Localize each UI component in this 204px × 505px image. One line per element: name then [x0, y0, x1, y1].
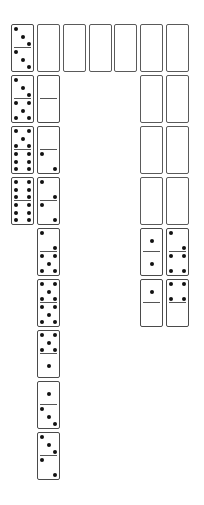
domino-half-top-one: [141, 280, 162, 303]
pip-icon: [47, 443, 51, 447]
domino-5-1[interactable]: [37, 330, 60, 378]
pip-icon: [27, 160, 31, 164]
pip-icon: [14, 188, 18, 192]
pip-icon: [40, 282, 44, 286]
pip-icon: [14, 195, 18, 199]
domino-half-bottom-three: [12, 48, 33, 71]
domino-half-bottom-five: [38, 252, 59, 275]
domino-1-1[interactable]: [140, 228, 163, 276]
domino-2-2[interactable]: [37, 177, 60, 225]
pip-icon: [27, 195, 31, 199]
domino-half-bottom-blank: [167, 303, 188, 326]
pip-icon: [14, 144, 18, 148]
pip-icon: [182, 269, 186, 273]
domino-face-down[interactable]: [140, 177, 163, 225]
pip-icon: [27, 180, 31, 184]
pip-icon: [27, 129, 31, 133]
domino-half-bottom-five: [12, 99, 33, 122]
domino-face-down[interactable]: [166, 75, 189, 123]
domino-half-bottom-four: [167, 252, 188, 275]
domino-face-down[interactable]: [63, 24, 86, 72]
domino-face-down[interactable]: [140, 126, 163, 174]
pip-icon: [27, 101, 31, 105]
pip-icon: [40, 254, 44, 258]
pip-icon: [47, 415, 51, 419]
pip-icon: [21, 86, 25, 90]
pip-icon: [40, 203, 44, 207]
pip-icon: [27, 65, 31, 69]
domino-half-bottom-two: [38, 456, 59, 479]
pip-icon: [53, 320, 57, 324]
pip-icon: [40, 407, 44, 411]
pip-icon: [27, 203, 31, 207]
domino-5-5[interactable]: [37, 279, 60, 327]
pip-icon: [150, 262, 154, 266]
domino-half-bottom-two: [38, 201, 59, 224]
pip-icon: [14, 152, 18, 156]
pip-icon: [14, 167, 18, 171]
domino-half-bottom-six: [12, 150, 33, 173]
pip-icon: [53, 450, 57, 454]
domino-half-top-three: [38, 433, 59, 456]
domino-2-4[interactable]: [166, 228, 189, 276]
domino-half-bottom-six: [12, 201, 33, 224]
pip-icon: [150, 290, 154, 294]
domino-half-top-two: [38, 229, 59, 252]
domino-face-down[interactable]: [166, 24, 189, 72]
domino-3-5[interactable]: [11, 75, 34, 123]
pip-icon: [53, 254, 57, 258]
domino-half-bottom-five: [38, 303, 59, 326]
domino-half-top-six: [12, 178, 33, 201]
domino-0-2[interactable]: [37, 126, 60, 174]
domino-half-top-one: [38, 382, 59, 405]
domino-face-down[interactable]: [140, 24, 163, 72]
pip-icon: [14, 129, 18, 133]
pip-icon: [27, 218, 31, 222]
game-board: [0, 0, 204, 505]
pip-icon: [47, 364, 51, 368]
pip-icon: [27, 167, 31, 171]
domino-2-5[interactable]: [37, 228, 60, 276]
domino-half-top-blank: [38, 127, 59, 150]
domino-4-0[interactable]: [166, 279, 189, 327]
pip-icon: [27, 42, 31, 46]
pip-icon: [14, 101, 18, 105]
domino-face-down[interactable]: [114, 24, 137, 72]
domino-half-top-five: [12, 127, 33, 150]
domino-face-down[interactable]: [140, 75, 163, 123]
domino-5-6[interactable]: [11, 126, 34, 174]
domino-1-0[interactable]: [140, 279, 163, 327]
domino-0-0[interactable]: [37, 75, 60, 123]
domino-3-2[interactable]: [37, 432, 60, 480]
pip-icon: [14, 50, 18, 54]
domino-face-down[interactable]: [37, 24, 60, 72]
pip-icon: [53, 269, 57, 273]
domino-half-top-blank: [38, 76, 59, 99]
pip-icon: [182, 246, 186, 250]
domino-face-down[interactable]: [89, 24, 112, 72]
domino-6-6[interactable]: [11, 177, 34, 225]
pip-icon: [27, 144, 31, 148]
domino-1-3[interactable]: [37, 381, 60, 429]
pip-icon: [169, 231, 173, 235]
domino-half-top-two: [167, 229, 188, 252]
pip-icon: [47, 341, 51, 345]
domino-face-down[interactable]: [166, 126, 189, 174]
pip-icon: [53, 348, 57, 352]
pip-icon: [53, 305, 57, 309]
pip-icon: [169, 297, 173, 301]
pip-icon: [40, 435, 44, 439]
pip-icon: [150, 239, 154, 243]
pip-icon: [169, 269, 173, 273]
pip-icon: [40, 333, 44, 337]
domino-half-top-three: [12, 76, 33, 99]
pip-icon: [14, 116, 18, 120]
pip-icon: [40, 231, 44, 235]
domino-half-bottom-blank: [141, 303, 162, 326]
domino-half-bottom-one: [38, 354, 59, 377]
pip-icon: [182, 254, 186, 258]
pip-icon: [21, 109, 25, 113]
pip-icon: [53, 167, 57, 171]
domino-face-down[interactable]: [166, 177, 189, 225]
domino-3-3[interactable]: [11, 24, 34, 72]
